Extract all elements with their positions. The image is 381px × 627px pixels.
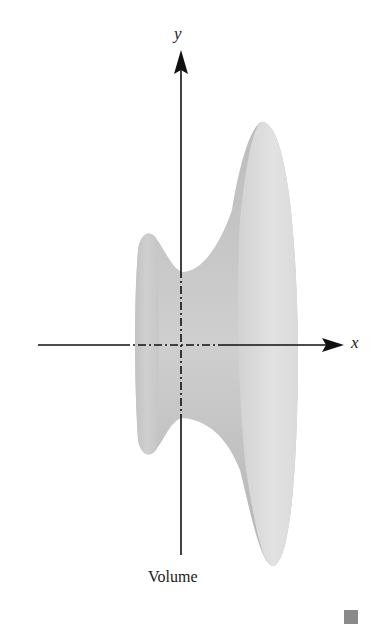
right-disc [238,122,298,566]
y-axis-label: y [174,24,182,44]
volume-diagram [0,0,381,627]
left-flare [135,234,159,455]
x-axis-label: x [351,333,359,353]
end-of-proof-square-icon [344,610,358,624]
solid-of-revolution [135,122,298,566]
figure-caption: Volume [148,568,197,586]
